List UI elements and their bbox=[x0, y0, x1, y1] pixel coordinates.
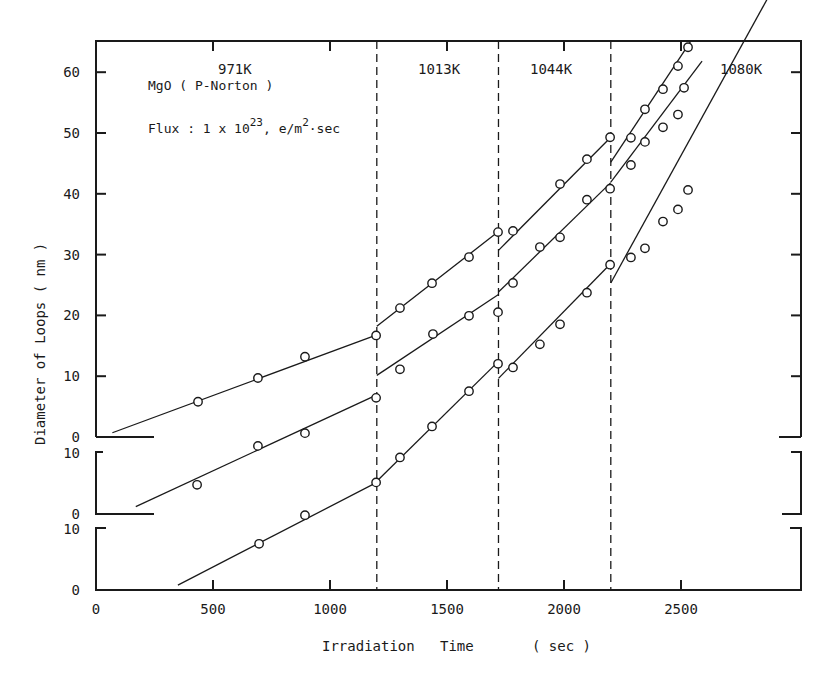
fit-line-bottom-971K bbox=[178, 482, 377, 585]
data-point-bottom bbox=[536, 340, 544, 348]
fit-line-middle-971K bbox=[136, 395, 377, 507]
flux-label: Flux : 1 x 1023, e/m2·sec bbox=[148, 116, 340, 136]
data-point-middle bbox=[254, 442, 262, 450]
data-point-top bbox=[254, 374, 262, 382]
data-point-bottom bbox=[606, 261, 614, 269]
y-tick-label-bottom: 10 bbox=[63, 521, 80, 537]
y-tick-label: 20 bbox=[63, 307, 80, 323]
data-point-middle bbox=[396, 365, 404, 373]
data-point-top bbox=[641, 105, 649, 113]
region-label-1013K: 1013K bbox=[418, 61, 461, 77]
data-point-middle bbox=[301, 429, 309, 437]
y-tick-label: 50 bbox=[63, 125, 80, 141]
fit-line-top-1013K bbox=[377, 231, 499, 326]
middle-panel-axis-left bbox=[96, 452, 154, 514]
plot-frame-top bbox=[96, 41, 801, 437]
data-point-bottom bbox=[494, 360, 502, 368]
fit-line-middle-1044K bbox=[498, 183, 610, 292]
data-point-top bbox=[583, 155, 591, 163]
temperature-boundaries bbox=[377, 41, 611, 590]
middle-panel-axis-right bbox=[782, 452, 801, 514]
data-point-bottom bbox=[556, 320, 564, 328]
data-point-bottom bbox=[659, 217, 667, 225]
y-tick-label: 10 bbox=[63, 368, 80, 384]
x-tick-label: 1000 bbox=[313, 601, 347, 617]
data-point-top bbox=[465, 253, 473, 261]
x-tick-label: 1500 bbox=[430, 601, 464, 617]
fit-line-bottom-1013K bbox=[377, 361, 499, 481]
data-point-top bbox=[428, 279, 436, 287]
data-point-middle bbox=[536, 243, 544, 251]
y-tick-label: 60 bbox=[63, 64, 80, 80]
fit-line-middle-1080K bbox=[611, 61, 702, 182]
region-label-1044K: 1044K bbox=[530, 61, 573, 77]
fit-line-top-1080K bbox=[611, 42, 691, 162]
data-point-middle bbox=[509, 279, 517, 287]
data-point-bottom bbox=[255, 540, 263, 548]
data-point-middle bbox=[193, 481, 201, 489]
x-axis-title: Irradiation Time bbox=[322, 638, 474, 654]
x-tick-label: 2500 bbox=[664, 601, 698, 617]
data-point-middle bbox=[641, 138, 649, 146]
loop-diameter-chart: 050010001500200025000102030405060010010 … bbox=[0, 0, 836, 683]
y-tick-label: 40 bbox=[63, 186, 80, 202]
data-point-middle bbox=[674, 110, 682, 118]
data-point-bottom bbox=[301, 511, 309, 519]
data-point-middle bbox=[627, 161, 635, 169]
data-point-top bbox=[194, 398, 202, 406]
data-point-bottom bbox=[627, 253, 635, 261]
data-point-bottom bbox=[428, 422, 436, 430]
data-point-top bbox=[301, 353, 309, 361]
data-point-middle bbox=[556, 233, 564, 241]
data-point-top bbox=[674, 62, 682, 70]
data-point-middle bbox=[606, 185, 614, 193]
bottom-panel-axis bbox=[96, 528, 801, 590]
material-label: MgO ( P-Norton ) bbox=[148, 78, 273, 93]
data-point-bottom bbox=[684, 186, 692, 194]
data-point-top bbox=[684, 43, 692, 51]
data-points bbox=[193, 43, 692, 548]
region-label-971K: 971K bbox=[218, 61, 252, 77]
data-point-bottom bbox=[641, 244, 649, 252]
data-point-bottom bbox=[509, 363, 517, 371]
x-tick-label: 2000 bbox=[547, 601, 581, 617]
data-point-top bbox=[606, 133, 614, 141]
y-tick-label-middle: 10 bbox=[63, 445, 80, 461]
data-point-top bbox=[494, 228, 502, 236]
data-point-middle bbox=[583, 195, 591, 203]
y-tick-label: 30 bbox=[63, 247, 80, 263]
data-point-middle bbox=[659, 123, 667, 131]
fit-line-top-971K bbox=[112, 335, 376, 433]
data-point-bottom bbox=[583, 288, 591, 296]
data-point-bottom bbox=[465, 387, 473, 395]
data-point-top bbox=[372, 331, 380, 339]
data-point-top bbox=[659, 85, 667, 93]
data-point-top bbox=[627, 134, 635, 142]
region-label-1080K: 1080K bbox=[720, 61, 763, 77]
data-point-bottom bbox=[372, 478, 380, 486]
data-point-middle bbox=[372, 394, 380, 402]
y-axis-title: Diameter of Loops ( nm ) bbox=[32, 243, 48, 445]
data-point-middle bbox=[465, 312, 473, 320]
data-point-middle bbox=[429, 330, 437, 338]
data-point-top bbox=[396, 304, 404, 312]
y-tick-label-bottom: 0 bbox=[72, 582, 80, 598]
data-point-middle bbox=[680, 84, 688, 92]
x-axis-unit: ( sec ) bbox=[532, 638, 591, 654]
data-point-bottom bbox=[674, 205, 682, 213]
data-point-top bbox=[556, 180, 564, 188]
data-point-bottom bbox=[396, 453, 404, 461]
y-tick-label: 0 bbox=[72, 429, 80, 445]
x-tick-label: 500 bbox=[200, 601, 225, 617]
y-tick-label-middle: 0 bbox=[72, 506, 80, 522]
data-point-middle bbox=[494, 308, 502, 316]
x-tick-label: 0 bbox=[92, 601, 100, 617]
data-point-top bbox=[509, 227, 517, 235]
labels: MgO ( P-Norton ) Flux : 1 x 1023, e/m2·s… bbox=[32, 61, 763, 654]
